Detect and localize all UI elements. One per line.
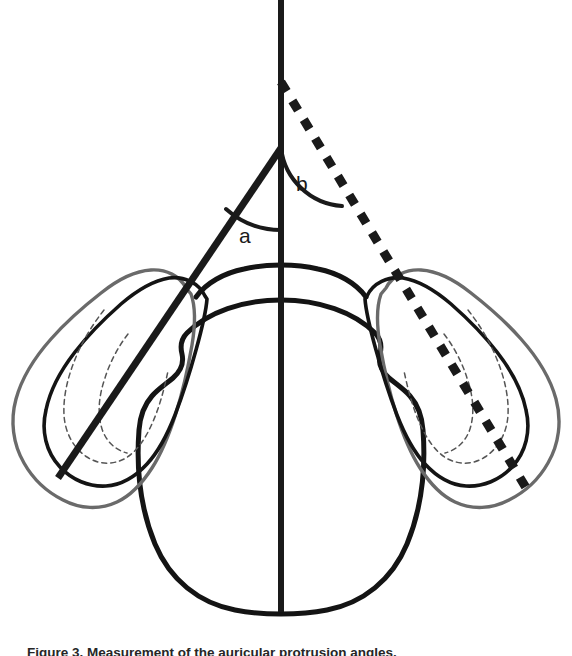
- right-ear-middle-contour: [365, 278, 528, 486]
- angle-b-arc: [281, 148, 342, 206]
- figure-canvas: a b Figure 3. Measurement of the auricul…: [0, 0, 572, 656]
- figure-caption: Figure 3. Measurement of the auricular p…: [27, 644, 567, 656]
- right-ear-inner-contour: [404, 310, 508, 463]
- angle-b-label: b: [296, 173, 308, 194]
- angle-a-label: a: [239, 225, 251, 246]
- left-ear-outer-contour: [13, 270, 195, 508]
- anatomical-diagram: [0, 0, 572, 656]
